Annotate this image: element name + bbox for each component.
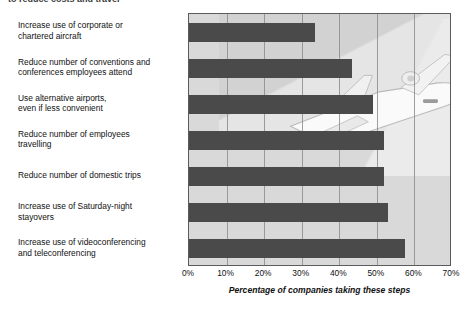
category-labels: Increase use of corporate orchartered ai…: [0, 13, 184, 266]
bar-1: [189, 23, 315, 42]
category-label-line: travelling: [18, 139, 184, 150]
category-label-line: Use alternative airports,: [18, 93, 184, 104]
bar-3: [189, 95, 373, 114]
category-label-line: even if less convenient: [18, 103, 184, 114]
bar-row: [189, 95, 451, 114]
x-axis: 0%10%20%30%40%50%60%70%: [188, 268, 451, 282]
bar-row: [189, 167, 451, 186]
category-label-line: Reduce number of domestic trips: [18, 170, 184, 181]
x-tick-label-70pct: 70%: [443, 268, 460, 278]
category-label-line: Increase use of Saturday-night: [18, 201, 184, 212]
category-label-4: Reduce number of employeestravelling: [18, 129, 184, 150]
bar-5: [189, 167, 384, 186]
category-label-line: conferences employees attend: [18, 67, 184, 78]
plot-inner: [189, 14, 450, 265]
category-label-line: Increase use of corporate or: [18, 20, 184, 31]
category-label-line: Reduce number of conventions and: [18, 57, 184, 68]
bar-row: [189, 131, 451, 150]
x-tick-label-40pct: 40%: [330, 268, 347, 278]
bar-2: [189, 59, 352, 78]
category-label-1: Increase use of corporate orchartered ai…: [18, 20, 184, 41]
bar-row: [189, 239, 451, 258]
category-label-2: Reduce number of conventions andconferen…: [18, 57, 184, 78]
bar-row: [189, 59, 451, 78]
horizontal-bar-chart: to reduce costs and travel Increase use …: [0, 0, 464, 312]
category-label-line: Reduce number of employees: [18, 129, 184, 140]
category-label-6: Increase use of Saturday-nightstayovers: [18, 201, 184, 222]
x-tick-label-60pct: 60%: [405, 268, 422, 278]
x-tick-label-10pct: 10%: [217, 268, 234, 278]
bar-6: [189, 203, 388, 222]
x-tick-label-0pct: 0%: [182, 268, 194, 278]
category-label-5: Reduce number of domestic trips: [18, 170, 184, 181]
category-label-line: chartered aircraft: [18, 31, 184, 42]
x-tick-label-50pct: 50%: [367, 268, 384, 278]
x-tick-label-30pct: 30%: [292, 268, 309, 278]
category-label-line: and teleconferencing: [18, 248, 184, 259]
x-tick-label-20pct: 20%: [255, 268, 272, 278]
category-label-line: stayovers: [18, 212, 184, 223]
plot-area: [188, 13, 451, 266]
clipped-heading: to reduce costs and travel: [8, 0, 308, 4]
category-label-3: Use alternative airports,even if less co…: [18, 93, 184, 114]
bar-row: [189, 23, 451, 42]
category-label-line: Increase use of videoconferencing: [18, 237, 184, 248]
category-label-7: Increase use of videoconferencingand tel…: [18, 237, 184, 258]
x-axis-title: Percentage of companies taking these ste…: [188, 285, 451, 295]
bar-7: [189, 239, 405, 258]
bar-row: [189, 203, 451, 222]
bar-4: [189, 131, 384, 150]
